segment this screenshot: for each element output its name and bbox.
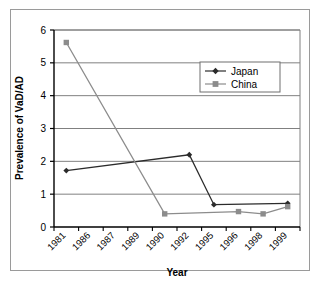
y-tick-label-2: 2 — [40, 156, 46, 167]
legend-label-china: China — [231, 79, 258, 90]
data-point-china-1996 — [236, 209, 241, 214]
chart-canvas: 0123456 19811986198719891990199219951996… — [0, 0, 331, 290]
x-tick-label-1986: 1986 — [70, 230, 93, 253]
x-axis-title: Year — [166, 267, 187, 278]
x-tick-label-1990: 1990 — [143, 230, 166, 253]
y-tick-label-6: 6 — [40, 25, 46, 36]
data-point-china-1999 — [285, 204, 290, 209]
data-point-china-1990 — [162, 211, 167, 216]
y-axis-title: Prevalence of VaD/AD — [14, 76, 25, 180]
y-tick-label-3: 3 — [40, 123, 46, 134]
x-tick-label-1996: 1996 — [217, 230, 240, 253]
y-tick-label-1: 1 — [40, 189, 46, 200]
x-axis-tick-labels: 1981198619871989199019921995199619981999 — [45, 230, 289, 253]
x-tick-label-1995: 1995 — [193, 230, 216, 253]
x-tick-label-1987: 1987 — [94, 230, 117, 253]
data-point-china-1998 — [260, 211, 265, 216]
y-tick-label-4: 4 — [40, 90, 46, 101]
x-tick-label-1992: 1992 — [168, 230, 191, 253]
x-tick-label-1981: 1981 — [45, 230, 68, 253]
chart-figure: 0123456 19811986198719891990199219951996… — [0, 0, 331, 290]
chart-legend[interactable]: Japan China — [200, 62, 280, 92]
y-tick-label-5: 5 — [40, 57, 46, 68]
x-tick-label-1989: 1989 — [119, 230, 142, 253]
y-axis-ticks: 0123456 — [40, 25, 54, 233]
legend-label-japan: Japan — [231, 66, 258, 77]
y-tick-label-0: 0 — [40, 222, 46, 233]
data-point-china-1981 — [64, 40, 69, 45]
x-tick-label-1999: 1999 — [266, 230, 289, 253]
x-tick-label-1998: 1998 — [242, 230, 265, 253]
legend-marker-china-square-icon — [213, 81, 219, 87]
